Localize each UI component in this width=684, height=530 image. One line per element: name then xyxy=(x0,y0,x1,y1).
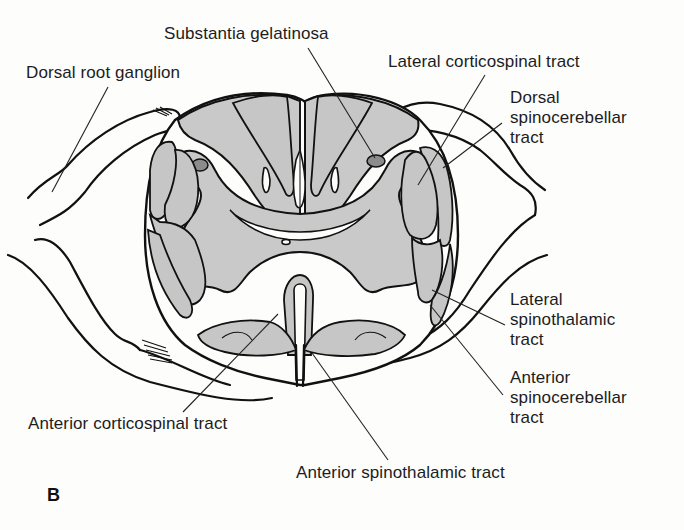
label-lateral-corticospinal-tract: Lateral corticospinal tract xyxy=(388,52,580,72)
label-dorsal-spinocerebellar-tract: Dorsal spinocerebellar tract xyxy=(510,88,627,148)
substantia-gelatinosa-right xyxy=(367,155,385,167)
label-anterior-spinothalamic-tract: Anterior spinothalamic tract xyxy=(296,463,505,483)
label-anterior-corticospinal-tract: Anterior corticospinal tract xyxy=(28,414,227,434)
label-substantia-gelatinosa: Substantia gelatinosa xyxy=(164,24,329,44)
label-lateral-spinothalamic-tract: Lateral spinothalamic tract xyxy=(510,290,615,350)
panel-label: B xyxy=(47,485,60,506)
label-anterior-spinocerebellar-tract: Anterior spinocerebellar tract xyxy=(510,368,627,428)
label-dorsal-root-ganglion: Dorsal root ganglion xyxy=(26,63,180,83)
central-canal xyxy=(282,240,290,245)
spinal-cord-diagram: Substantia gelatinosa Dorsal root gangli… xyxy=(0,0,684,530)
